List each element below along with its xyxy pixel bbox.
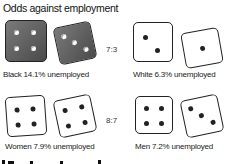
die-icon-four-light	[5, 95, 48, 138]
die-icon-four-dark	[5, 20, 47, 62]
die-icon-three-light-men	[179, 93, 224, 138]
die-icon-three-dark	[52, 20, 97, 65]
label-men: Men 7.2% unemployed	[135, 142, 213, 151]
ratio-gender: 8:7	[106, 116, 117, 125]
label-black: Black 14.1% unemployed	[3, 70, 89, 79]
die-icon-four-light-tilted	[52, 93, 97, 138]
die-icon-two-light	[133, 22, 173, 62]
label-white: White 6.3% unemployed	[133, 70, 216, 79]
figure-title: Odds against employment	[3, 2, 118, 14]
die-icon-one-light	[180, 27, 224, 69]
ratio-race: 7:3	[106, 45, 117, 54]
die-icon-four-light-men	[135, 96, 173, 134]
label-women: Women 7.9% unemployed	[5, 142, 94, 151]
